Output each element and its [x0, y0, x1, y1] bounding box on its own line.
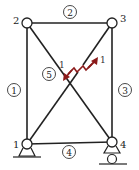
member-label-3: 3 — [122, 86, 128, 96]
force-label-right: 1 — [100, 55, 106, 65]
cut-force-arrows: 1 1 — [59, 55, 106, 81]
node-2 — [22, 18, 32, 28]
node-label-1: 1 — [13, 139, 19, 150]
node-3 — [107, 18, 117, 28]
member-4 — [27, 142, 112, 144]
force-label-left: 1 — [59, 60, 65, 70]
node-label-3: 3 — [120, 13, 126, 24]
node-1 — [22, 139, 32, 149]
node-4 — [107, 137, 117, 147]
roller-wheel — [108, 155, 117, 164]
member-label-4: 4 — [66, 148, 72, 158]
node-label-2: 2 — [13, 15, 19, 26]
member-label-2: 2 — [67, 8, 73, 18]
members — [27, 23, 112, 144]
member-label-5: 5 — [46, 70, 52, 80]
member-1-3-lower — [27, 72, 78, 144]
truss-diagram: 1 1 1 2 3 4 2 1 3 4 5 — [0, 0, 139, 170]
cut-zigzag — [68, 64, 92, 74]
member-label-1: 1 — [11, 86, 17, 96]
node-label-4: 4 — [120, 139, 126, 150]
